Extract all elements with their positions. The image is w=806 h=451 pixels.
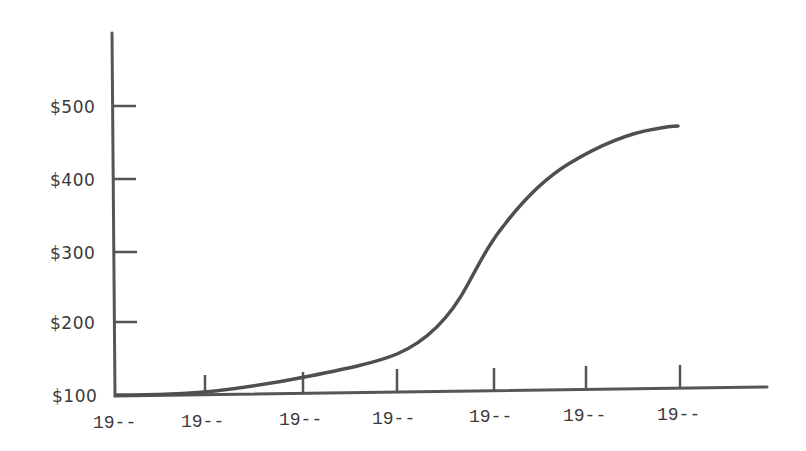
chart-canvas: $500 $400 $300 $200 $100 19-- 19-- 19-- … [0,0,806,451]
x-label-5: 19-- [469,407,512,427]
x-label-1: 19-- [93,413,136,433]
y-axis [112,33,115,396]
y-label-300: $300 [50,243,95,263]
data-line [117,126,678,395]
y-label-100: $100 [52,386,97,406]
x-label-7: 19-- [657,405,700,425]
y-label-500: $500 [50,97,95,117]
y-label-200: $200 [50,313,95,333]
x-label-4: 19-- [372,409,415,429]
x-label-2: 19-- [181,412,224,432]
y-label-400: $400 [50,170,95,190]
x-label-6: 19-- [563,406,606,426]
x-label-3: 19-- [279,410,322,430]
line-chart: $500 $400 $300 $200 $100 19-- 19-- 19-- … [0,0,806,451]
